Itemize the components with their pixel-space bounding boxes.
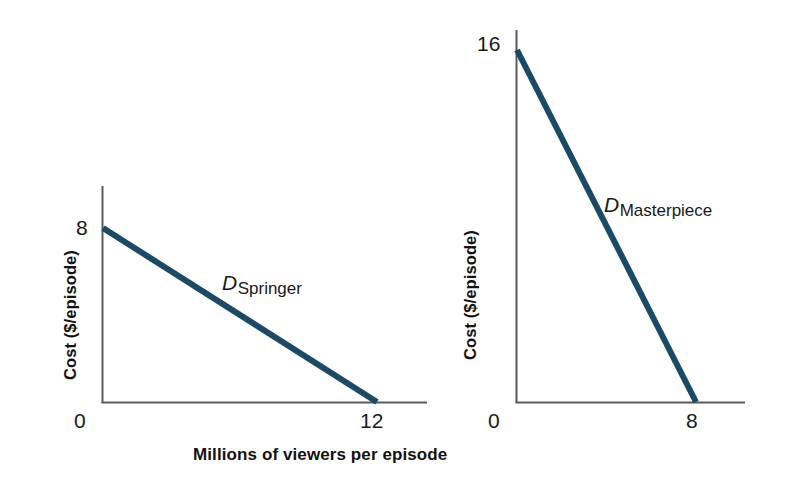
x-tick-end-label-masterpiece: 8 — [686, 410, 698, 431]
panel-masterpiece: 16 0 8 Cost ($/episode) DMasterpiece — [440, 0, 788, 492]
panel-springer: 8 0 12 Cost ($/episode) DSpringer — [0, 0, 440, 492]
x-tick-origin-label-masterpiece: 0 — [488, 410, 500, 431]
curve-label-masterpiece: DMasterpiece — [604, 194, 712, 215]
y-tick-label-masterpiece: 16 — [477, 33, 500, 54]
y-axis-title-masterpiece: Cost ($/episode) — [462, 230, 479, 360]
curve-label-symbol-masterpiece: D — [604, 193, 619, 216]
x-tick-origin-label-springer: 0 — [74, 410, 86, 431]
curve-label-subscript-masterpiece: Masterpiece — [620, 201, 713, 220]
y-tick-label-springer: 8 — [76, 217, 88, 238]
demand-curve-springer — [103, 228, 377, 402]
curve-label-symbol-springer: D — [222, 271, 237, 294]
curve-label-subscript-springer: Springer — [238, 279, 302, 298]
curve-label-springer: DSpringer — [222, 272, 301, 293]
demand-curve-masterpiece — [517, 50, 696, 402]
y-axis-title-springer: Cost ($/episode) — [62, 250, 79, 380]
x-axis-title: Millions of viewers per episode — [193, 446, 447, 463]
demand-curves-figure: 8 0 12 Cost ($/episode) DSpringer 16 0 8… — [0, 0, 788, 492]
x-tick-end-label-springer: 12 — [360, 410, 383, 431]
